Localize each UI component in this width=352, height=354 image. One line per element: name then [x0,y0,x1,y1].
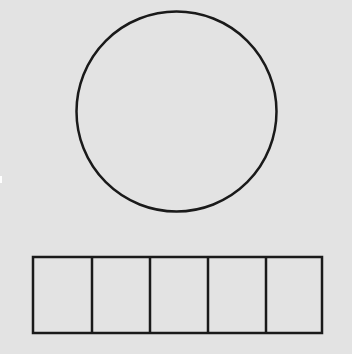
circle-shape [77,12,277,212]
strip-outline [33,257,322,333]
five-cell-strip [33,257,322,333]
diagram-canvas [0,0,352,354]
diagram-svg [0,0,352,354]
edge-mark [0,176,2,183]
strip-dividers [92,257,266,333]
